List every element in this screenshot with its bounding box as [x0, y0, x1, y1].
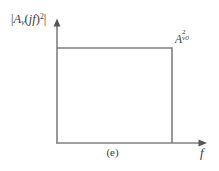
- y-label-subscript: v: [21, 18, 24, 27]
- y-label-superscript: 2: [40, 12, 44, 21]
- y-axis-arrow-icon: [54, 19, 61, 27]
- y-label-base: A: [14, 12, 22, 26]
- plateau-label-base: A: [175, 33, 182, 45]
- figure-caption: (e): [0, 147, 219, 158]
- plateau-label-script-stack: 2v0: [182, 31, 191, 43]
- brickwall-response-curve: [57, 48, 172, 143]
- y-label-bar-right: |: [44, 12, 47, 26]
- plateau-label-subscript: v0: [182, 35, 189, 42]
- figure-caption-text: (e): [106, 146, 118, 158]
- figure-container: |Av(jf)2| A2v0 f (e): [0, 0, 219, 171]
- plateau-level-label: A2v0: [175, 31, 191, 45]
- y-axis-label: |Av(jf)2|: [11, 13, 46, 26]
